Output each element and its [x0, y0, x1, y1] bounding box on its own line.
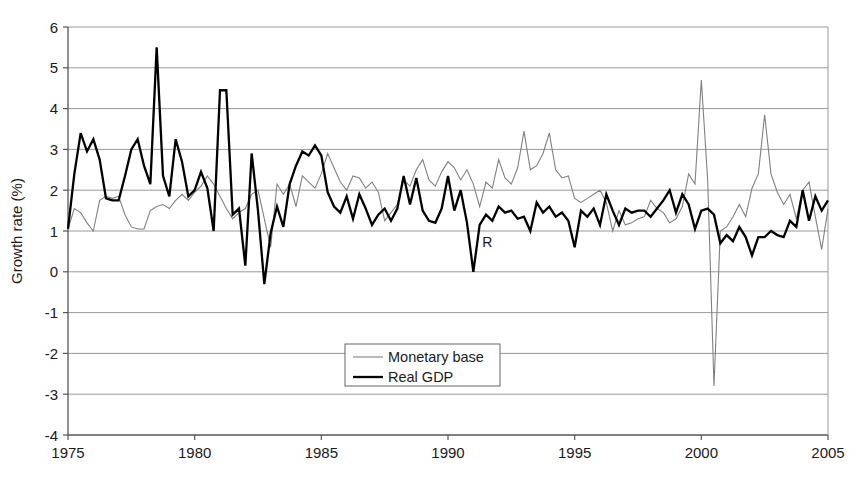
chart-legend: Monetary baseReal GDP	[345, 344, 500, 386]
y-tick-label: 5	[50, 59, 58, 76]
x-axis-ticks: 1975198019851990199520002005	[51, 435, 844, 461]
y-tick-label: 6	[50, 19, 58, 36]
chart-container: -4-3-2-10123456 197519801985199019952000…	[0, 0, 864, 490]
x-tick-label: 1990	[431, 444, 464, 461]
y-tick-label: -3	[45, 386, 58, 403]
y-tick-label: -1	[45, 304, 58, 321]
x-tick-label: 1975	[51, 444, 84, 461]
y-tick-label: -4	[45, 427, 58, 444]
annotation-label: R	[482, 234, 492, 250]
x-tick-label: 1995	[558, 444, 591, 461]
x-tick-label: 1980	[178, 444, 211, 461]
y-tick-label: -2	[45, 345, 58, 362]
y-axis-ticks: -4-3-2-10123456	[45, 19, 68, 444]
growth-rate-line-chart: -4-3-2-10123456 197519801985199019952000…	[0, 0, 864, 490]
y-tick-label: 2	[50, 182, 58, 199]
y-axis-label: Growth rate (%)	[8, 178, 25, 284]
data-series	[68, 47, 828, 386]
series-line	[68, 80, 828, 386]
y-tick-label: 3	[50, 141, 58, 158]
x-tick-label: 2000	[685, 444, 718, 461]
y-tick-label: 1	[50, 223, 58, 240]
gridlines	[68, 27, 828, 394]
legend-label: Monetary base	[388, 349, 484, 365]
x-tick-label: 2005	[811, 444, 844, 461]
legend-label: Real GDP	[388, 369, 453, 385]
y-axis-title: Growth rate (%)	[8, 178, 25, 284]
x-tick-label: 1985	[305, 444, 338, 461]
series-line	[68, 47, 828, 284]
y-tick-label: 4	[50, 100, 58, 117]
chart-annotations: R	[482, 234, 492, 250]
y-tick-label: 0	[50, 263, 58, 280]
